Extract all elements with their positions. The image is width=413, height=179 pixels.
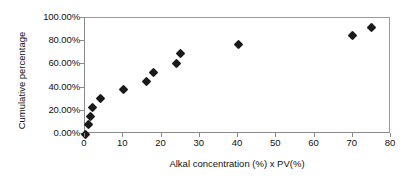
x-tick-label: 50 [270,138,281,148]
y-tick-label: 80.00% [48,35,80,45]
y-axis: 0.00%20.00%40.00%60.00%80.00%100.00% [24,0,80,179]
y-tick-label: 60.00% [48,59,80,69]
x-tick-label: 60 [308,138,319,148]
y-tick-label: 0.00% [54,128,80,138]
data-point [233,40,243,50]
data-point [88,102,98,112]
data-point [95,93,105,103]
x-tick-label: 10 [117,138,128,148]
y-tick-label: 40.00% [48,82,80,92]
x-tick-label: 30 [193,138,204,148]
data-point [118,84,128,94]
x-axis-title: Alkal concentration (%) x PV(%) [84,158,390,169]
data-series [85,18,389,132]
data-point [348,31,358,41]
x-tick-label: 70 [346,138,357,148]
data-point [172,58,182,68]
y-tick-label: 100.00% [43,12,80,22]
plot-area [84,17,390,133]
data-point [367,22,377,32]
scatter-chart: 0.00%20.00%40.00%60.00%80.00%100.00% Cum… [0,0,413,179]
data-point [141,76,151,86]
x-tick-label: 40 [232,138,243,148]
data-point [176,49,186,59]
data-point [84,120,94,130]
y-axis-title: Cumulative percentage [16,11,27,151]
x-tick-label: 0 [81,138,86,148]
data-point [149,68,159,78]
y-tick-label: 20.00% [48,105,80,115]
x-axis: 01020304050607080 [84,133,390,155]
x-tick-label: 20 [155,138,166,148]
x-tick-label: 80 [385,138,396,148]
